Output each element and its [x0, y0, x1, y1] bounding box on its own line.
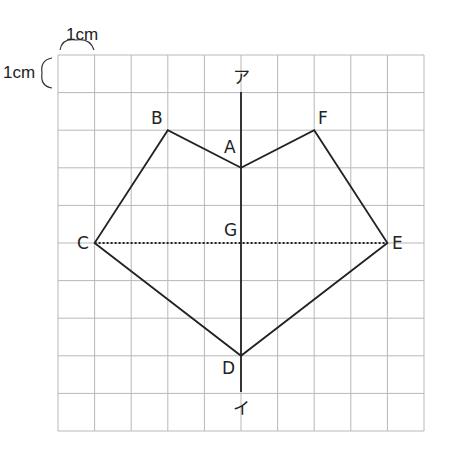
scale-brackets [42, 40, 94, 88]
horizontal-scale-label: 1cm [66, 25, 98, 44]
figure-canvas: 1cm 1cm ア イ B F A C G E D [0, 0, 450, 460]
point-label-a: A [224, 137, 236, 157]
point-label-f: F [318, 108, 328, 128]
point-label-e: E [392, 233, 403, 253]
point-label-g: G [224, 220, 237, 240]
point-label-d: D [222, 358, 235, 378]
vertical-scale-label: 1cm [3, 63, 35, 82]
point-label-c: C [77, 233, 89, 253]
point-label-b: B [151, 108, 163, 128]
axis-label-top: ア [233, 67, 250, 87]
axis-label-bottom: イ [233, 398, 250, 418]
